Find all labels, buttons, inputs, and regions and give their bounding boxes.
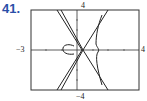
small-loop xyxy=(63,45,74,55)
plot-area xyxy=(0,0,147,101)
